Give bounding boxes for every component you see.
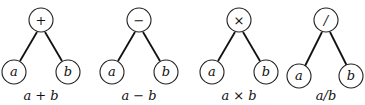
operator-node: × [227,8,251,32]
caption: a/b [316,88,336,103]
edge-left [218,32,235,61]
right-operand-node: b [339,64,363,88]
left-operand-label: a [10,64,18,79]
expression-trees-diagram: + a b a + b − a b a − b [0,0,365,105]
edge-right [330,32,347,66]
operator-label: × [234,13,245,28]
tree-multiplication: × a b a × b [200,8,278,103]
left-operand-node: a [287,64,311,88]
left-operand-node: a [100,60,124,84]
caption: a − b [121,88,156,103]
operator-node: + [29,8,53,32]
edge-left [20,32,37,61]
right-operand-label: b [347,68,355,83]
right-operand-node: b [56,60,80,84]
left-operand-label: a [208,64,216,79]
right-operand-node: b [154,60,178,84]
caption: a + b [23,88,58,103]
operator-node: / [314,8,338,32]
right-operand-node: b [254,60,278,84]
edge-left [305,32,322,66]
left-operand-node: a [2,60,26,84]
left-operand-label: a [295,68,303,83]
edge-right [143,32,160,61]
operator-node: − [127,8,151,32]
edge-right [243,32,260,61]
operator-label: + [36,13,47,28]
left-operand-label: a [108,64,116,79]
operator-label: − [134,13,145,28]
caption: a × b [221,88,256,103]
edge-left [118,32,135,61]
left-operand-node: a [200,60,224,84]
edge-right [45,32,62,61]
right-operand-label: b [162,64,170,79]
tree-subtraction: − a b a − b [100,8,178,103]
tree-division: / a b a/b [287,8,363,103]
right-operand-label: b [64,64,72,79]
tree-addition: + a b a + b [2,8,80,103]
right-operand-label: b [262,64,270,79]
